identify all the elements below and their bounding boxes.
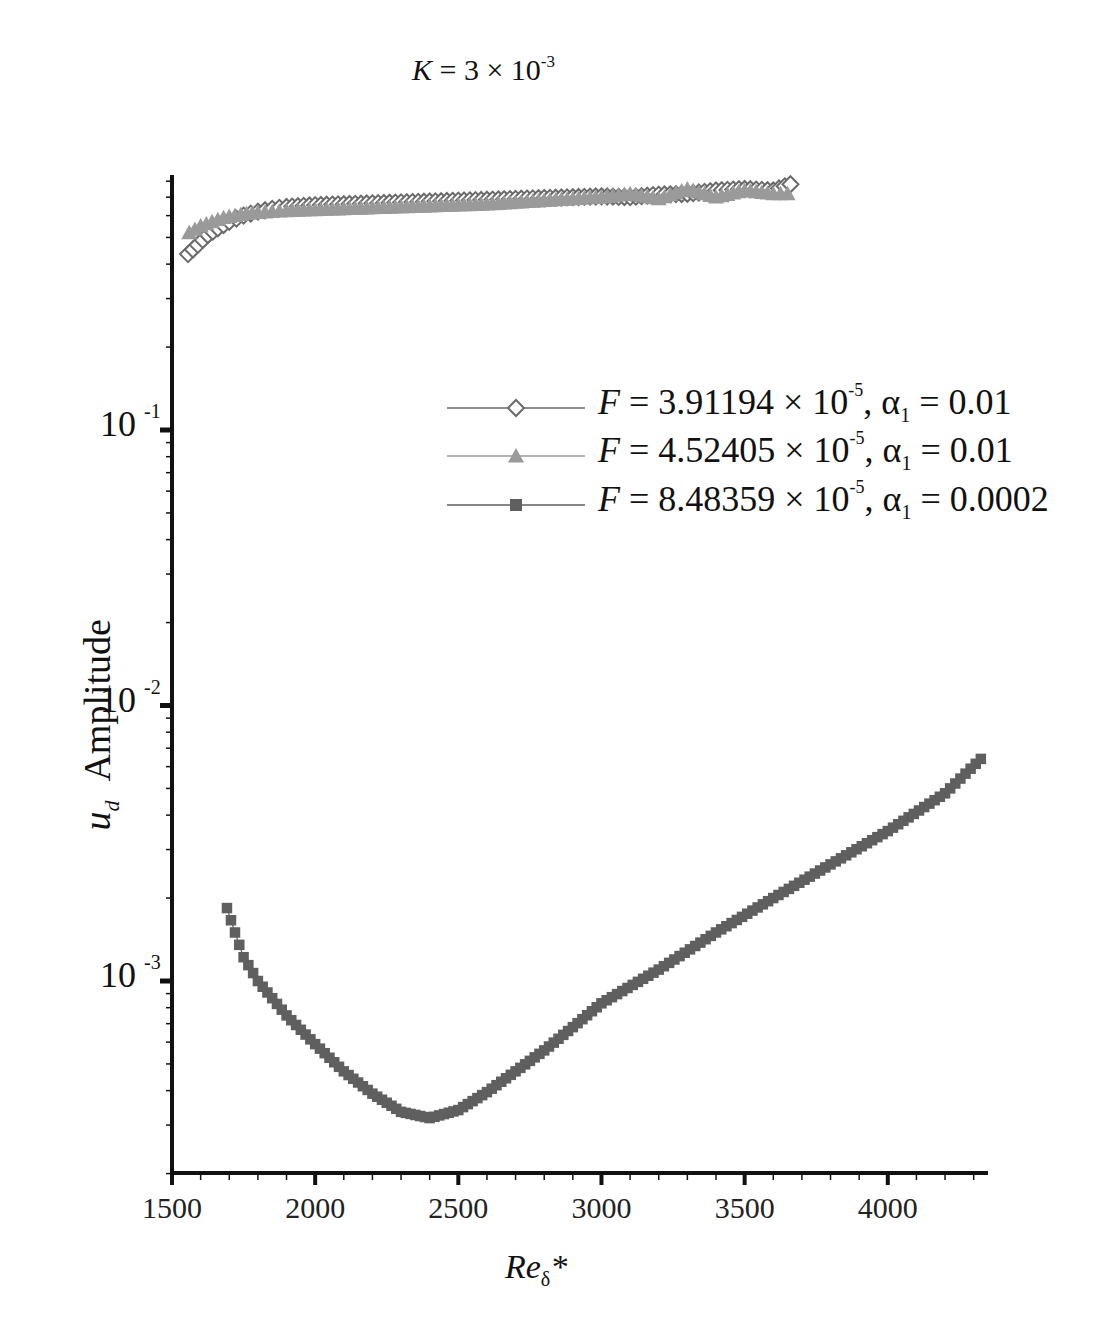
x-tick-label: 2000: [275, 1191, 355, 1225]
chart-title: K = 3 × 10-3: [412, 52, 555, 87]
x-axis-label: Reδ*: [505, 1248, 567, 1291]
legend-item-2: [447, 448, 585, 462]
series-3: [222, 754, 986, 1124]
y-tick-label: 10-2: [100, 676, 161, 721]
legend: [447, 400, 585, 511]
legend-item-1: [447, 400, 585, 416]
x-tick-label: 2500: [418, 1191, 498, 1225]
chart-canvas: [0, 0, 1100, 1328]
legend-label-2: F = 4.52405 × 10-5, α1 = 0.01: [598, 428, 1013, 475]
y-tick-label: 10-3: [100, 951, 161, 996]
x-tick-label: 1500: [132, 1191, 212, 1225]
legend-item-3: [447, 499, 585, 511]
x-tick-label: 4000: [848, 1191, 928, 1225]
y-tick-label: 10-1: [100, 400, 161, 445]
y-axis-label: ud Amplitude: [75, 545, 125, 905]
legend-label-1: F = 3.91194 × 10-5, α1 = 0.01: [598, 380, 1011, 427]
axes: [160, 175, 988, 1185]
x-tick-label: 3000: [561, 1191, 641, 1225]
x-tick-label: 3500: [705, 1191, 785, 1225]
legend-label-3: F = 8.48359 × 10-5, α1 = 0.0002: [598, 477, 1049, 524]
series-2: [181, 181, 795, 239]
series-layer: [180, 176, 986, 1123]
